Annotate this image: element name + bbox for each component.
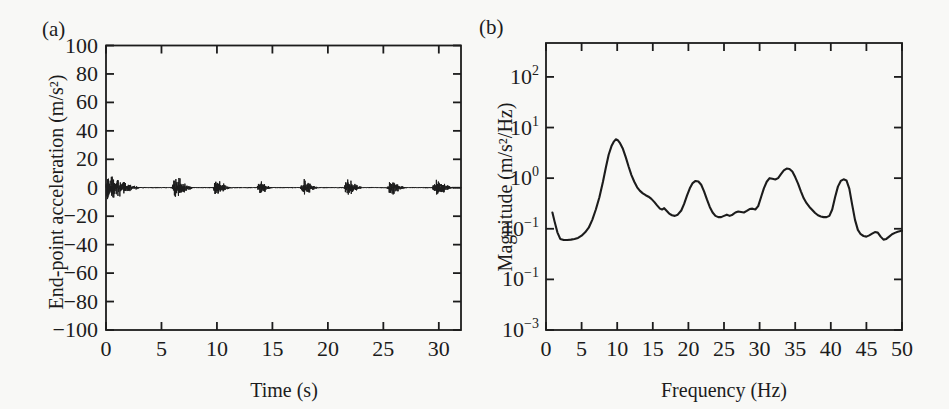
svg-text:40: 40 bbox=[76, 118, 98, 143]
svg-text:20: 20 bbox=[317, 336, 339, 361]
panel-a-x-axis-title: Time (s) bbox=[250, 379, 318, 402]
svg-text:−20: −20 bbox=[64, 203, 98, 228]
svg-text:−80: −80 bbox=[64, 289, 98, 314]
svg-text:−100: −100 bbox=[53, 317, 98, 342]
svg-text:102: 102 bbox=[510, 63, 539, 89]
panel-a-tick-labels: 051015202530100806040200−20−40−60−80−100 bbox=[53, 33, 450, 362]
svg-text:20: 20 bbox=[677, 336, 699, 361]
panel-b-tick-labels: 0510152025303540455010210110010−110−110−… bbox=[502, 63, 913, 361]
svg-text:35: 35 bbox=[784, 336, 806, 361]
svg-text:10: 10 bbox=[206, 336, 228, 361]
figure-two-panel-chart: 051015202530100806040200−20−40−60−80−100… bbox=[0, 0, 949, 409]
svg-text:100: 100 bbox=[65, 33, 98, 58]
svg-text:45: 45 bbox=[855, 336, 877, 361]
svg-text:60: 60 bbox=[76, 89, 98, 114]
panel-b-y-axis-title: Magnitude (m/s²/Hz) bbox=[494, 103, 517, 272]
svg-text:20: 20 bbox=[76, 146, 98, 171]
svg-text:10−3: 10−3 bbox=[502, 316, 539, 342]
panel-a-waveform-path bbox=[106, 177, 461, 199]
svg-text:40: 40 bbox=[820, 336, 842, 361]
panel-a-tag: (a) bbox=[42, 17, 65, 42]
svg-text:80: 80 bbox=[76, 61, 98, 86]
svg-text:−60: −60 bbox=[64, 260, 98, 285]
svg-text:0: 0 bbox=[87, 175, 98, 200]
svg-text:15: 15 bbox=[642, 336, 664, 361]
svg-text:25: 25 bbox=[372, 336, 394, 361]
panel-a-y-axis-title: End-point acceleration (m/s²) bbox=[45, 75, 68, 310]
svg-text:50: 50 bbox=[891, 336, 913, 361]
svg-text:5: 5 bbox=[576, 336, 587, 361]
panel-b-x-axis-title: Frequency (Hz) bbox=[661, 379, 787, 402]
panel-b-spectrum-path bbox=[552, 139, 902, 240]
panel-b-tag: (b) bbox=[479, 15, 504, 40]
chart-canvas: 051015202530100806040200−20−40−60−80−100… bbox=[0, 0, 949, 409]
svg-text:30: 30 bbox=[749, 336, 771, 361]
svg-text:0: 0 bbox=[541, 336, 552, 361]
svg-text:0: 0 bbox=[101, 336, 112, 361]
svg-text:5: 5 bbox=[156, 336, 167, 361]
svg-text:−40: −40 bbox=[64, 232, 98, 257]
svg-text:10: 10 bbox=[606, 336, 628, 361]
svg-text:25: 25 bbox=[713, 336, 735, 361]
svg-text:15: 15 bbox=[261, 336, 283, 361]
svg-text:30: 30 bbox=[428, 336, 450, 361]
